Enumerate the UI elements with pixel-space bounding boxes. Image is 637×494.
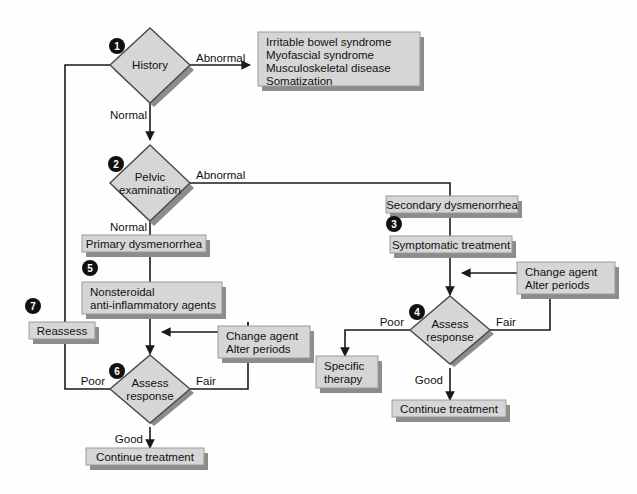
node-secondary-dysmenorrhea: Secondary dysmenorrhea xyxy=(386,196,522,218)
step-badge-4-label: 4 xyxy=(414,307,420,318)
node-change-agent-left: Change agent Alter periods xyxy=(218,326,314,363)
assess-response-left-line-2: response xyxy=(126,390,173,402)
differential-line-4: Somatization xyxy=(266,75,332,87)
continue-treatment-left-label: Continue treatment xyxy=(96,451,195,463)
label-history-normal: Normal xyxy=(110,109,147,121)
node-differential: Irritable bowel syndrome Myofascial synd… xyxy=(258,32,424,91)
differential-line-1: Irritable bowel syndrome xyxy=(266,36,391,48)
node-nsaid: Nonsteroidal anti-inflammatory agents xyxy=(82,282,226,319)
flowchart-svg: Irritable bowel syndrome Myofascial synd… xyxy=(0,0,637,494)
label-left-fair: Fair xyxy=(196,375,216,387)
history-label: History xyxy=(132,59,168,71)
node-continue-treatment-right: Continue treatment xyxy=(392,400,510,422)
nsaid-line-2: anti-inflammatory agents xyxy=(90,299,216,311)
step-badge-3: 3 xyxy=(386,216,402,232)
assess-response-right-line-1: Assess xyxy=(431,318,468,330)
step-badge-7-label: 7 xyxy=(30,301,36,312)
symptomatic-treatment-label: Symptomatic treatment xyxy=(392,239,511,251)
label-right-poor: Poor xyxy=(380,316,404,328)
secondary-dysmenorrhea-label: Secondary dysmenorrhea xyxy=(386,199,518,211)
step-badge-7: 7 xyxy=(25,298,41,314)
node-continue-treatment-left: Continue treatment xyxy=(86,448,208,470)
change-agent-right-line-1: Change agent xyxy=(525,266,598,278)
continue-treatment-right-label: Continue treatment xyxy=(400,403,499,415)
step-badge-6-label: 6 xyxy=(114,366,120,377)
reassess-label: Reassess xyxy=(37,325,88,337)
node-symptomatic-treatment: Symptomatic treatment xyxy=(390,236,516,258)
step-badge-3-label: 3 xyxy=(391,219,397,230)
label-left-good: Good xyxy=(115,433,143,445)
change-agent-left-line-2: Alter periods xyxy=(226,343,291,355)
assess-response-right-line-2: response xyxy=(426,331,473,343)
assess-response-left-line-1: Assess xyxy=(131,377,168,389)
step-badge-4: 4 xyxy=(409,304,425,320)
step-badge-2: 2 xyxy=(108,156,124,172)
label-pelvic-normal: Normal xyxy=(110,221,147,233)
step-badge-1-label: 1 xyxy=(114,41,120,52)
step-badge-5: 5 xyxy=(82,260,98,276)
primary-dysmenorrhea-label: Primary dysmenorrhea xyxy=(86,238,203,250)
label-right-fair: Fair xyxy=(496,316,516,328)
pelvic-examination-line-2: examination xyxy=(119,184,181,196)
node-reassess: Reassess xyxy=(29,322,99,344)
change-agent-left-line-1: Change agent xyxy=(226,330,299,342)
flowchart-canvas: Irritable bowel syndrome Myofascial synd… xyxy=(0,0,637,494)
step-badge-5-label: 5 xyxy=(87,263,93,274)
differential-line-3: Musculoskeletal disease xyxy=(266,62,391,74)
step-badge-2-label: 2 xyxy=(113,159,119,170)
label-history-abnormal: Abnormal xyxy=(196,52,245,64)
change-agent-right-line-2: Alter periods xyxy=(525,279,590,291)
label-pelvic-abnormal: Abnormal xyxy=(196,169,245,181)
node-change-agent-right: Change agent Alter periods xyxy=(517,262,619,299)
node-specific-therapy: Specific therapy xyxy=(316,356,382,393)
label-right-good: Good xyxy=(415,374,443,386)
specific-therapy-line-1: Specific xyxy=(324,360,365,372)
nsaid-line-1: Nonsteroidal xyxy=(90,286,155,298)
node-primary-dysmenorrhea: Primary dysmenorrhea xyxy=(82,235,210,257)
label-left-poor: Poor xyxy=(81,375,105,387)
specific-therapy-line-2: therapy xyxy=(324,373,363,385)
pelvic-examination-line-1: Pelvic xyxy=(135,171,166,183)
differential-line-2: Myofascial syndrome xyxy=(266,49,374,61)
step-badge-6: 6 xyxy=(109,363,125,379)
step-badge-1: 1 xyxy=(109,38,125,54)
